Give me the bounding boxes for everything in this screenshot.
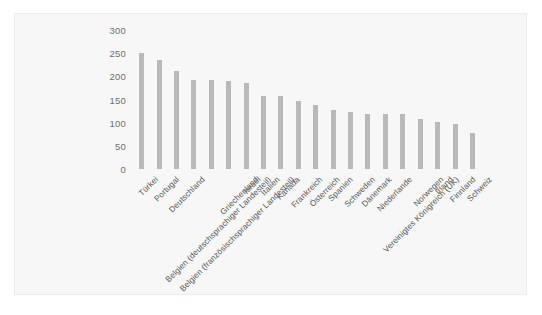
bar-slot — [429, 30, 446, 169]
bar-slot — [237, 30, 254, 169]
bar[interactable] — [400, 114, 405, 169]
plot-area: 300250200150100500 — [133, 30, 481, 169]
bar[interactable] — [226, 81, 231, 169]
bar-slot — [307, 30, 324, 169]
bar[interactable] — [191, 80, 196, 169]
bar-slot — [377, 30, 394, 169]
bar-slot — [185, 30, 202, 169]
x-label-slot: Dänemark — [359, 173, 376, 293]
y-axis-tick-label: 200 — [110, 71, 126, 82]
x-label-slot: Schweiz — [464, 173, 481, 293]
bar[interactable] — [453, 124, 458, 169]
bar-slot — [324, 30, 341, 169]
bar[interactable] — [383, 114, 388, 169]
bar-slot — [446, 30, 463, 169]
x-label-slot: Frankreich — [290, 173, 307, 293]
bar-slot — [464, 30, 481, 169]
bar[interactable] — [348, 112, 353, 169]
bar[interactable] — [157, 60, 162, 169]
bar[interactable] — [313, 105, 318, 169]
y-axis-tick-label: 50 — [115, 140, 126, 151]
y-axis-tick-label: 100 — [110, 117, 126, 128]
bar[interactable] — [331, 110, 336, 169]
y-axis-tick-label: 0 — [121, 164, 126, 175]
bar[interactable] — [418, 119, 423, 169]
x-label-slot: Italien — [255, 173, 272, 293]
bar-slot — [394, 30, 411, 169]
bar-slot — [290, 30, 307, 169]
y-axis-tick-label: 250 — [110, 48, 126, 59]
x-label-slot: Norwegen — [412, 173, 429, 293]
y-axis-tick-label: 150 — [110, 94, 126, 105]
bar-slot — [133, 30, 150, 169]
bar-slot — [150, 30, 167, 169]
x-axis-category-labels: TürkeiPortugalDeutschlandBelgien (deutsc… — [133, 173, 481, 293]
bar-slot — [220, 30, 237, 169]
x-label-slot: Niederlande — [377, 173, 394, 293]
bar[interactable] — [278, 96, 283, 169]
x-label-slot: Vereinigtes Königreich (UK) — [394, 173, 411, 293]
bar[interactable] — [296, 101, 301, 169]
bar[interactable] — [174, 71, 179, 169]
bar-slot — [272, 30, 289, 169]
bar-slot — [342, 30, 359, 169]
bar-series — [133, 30, 481, 169]
bar-slot — [255, 30, 272, 169]
y-axis-tick-label: 300 — [110, 25, 126, 36]
bar[interactable] — [244, 83, 249, 169]
x-label-slot: Türkei — [133, 173, 150, 293]
x-label-slot: Österreich — [307, 173, 324, 293]
x-label-slot: Israel — [237, 173, 254, 293]
x-label-slot: Griechenland — [220, 173, 237, 293]
x-label-slot: Finnland — [446, 173, 463, 293]
x-label-slot: Belgien (französischsprachiger Landestei… — [203, 173, 220, 293]
x-axis-tick-label: Schweiz — [466, 175, 494, 203]
bar-slot — [359, 30, 376, 169]
x-label-slot: Irland — [429, 173, 446, 293]
x-label-slot: Spanien — [324, 173, 341, 293]
x-label-slot: Kanada — [272, 173, 289, 293]
x-label-slot: Schweden — [342, 173, 359, 293]
bar-slot — [203, 30, 220, 169]
bar[interactable] — [365, 114, 370, 169]
bar-slot — [168, 30, 185, 169]
bar[interactable] — [261, 96, 266, 169]
bar-slot — [412, 30, 429, 169]
bar[interactable] — [470, 133, 475, 169]
bar[interactable] — [435, 122, 440, 169]
bar[interactable] — [139, 53, 144, 169]
chart-figure: 300250200150100500 TürkeiPortugalDeutsch… — [14, 13, 527, 295]
bar[interactable] — [209, 80, 214, 169]
